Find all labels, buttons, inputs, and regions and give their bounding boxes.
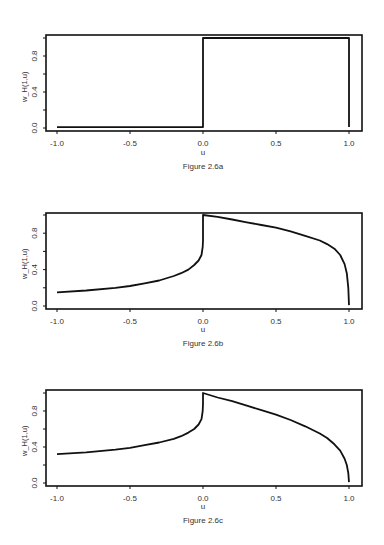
chart-panel-b: -1.0-0.50.00.51.00.00.40.8 w_H(1,u) u Fi… bbox=[0, 178, 384, 356]
figure-caption: Figure 2.6c bbox=[0, 516, 384, 525]
y-tick-label: 0.4 bbox=[30, 263, 39, 275]
y-axis-label: w_H(1,u) bbox=[20, 426, 29, 456]
x-tick-label: 0.0 bbox=[197, 139, 209, 148]
x-tick-label: -1.0 bbox=[50, 139, 64, 148]
chart-panel-a: -1.0-0.50.00.51.00.00.40.8 w_H(1,u) u Fi… bbox=[0, 0, 384, 178]
figure-caption: Figure 2.6a bbox=[0, 162, 384, 171]
y-axis-label: w_H(1,u) bbox=[20, 249, 29, 279]
plot-frame bbox=[46, 390, 362, 486]
y-tick-label: 0.4 bbox=[30, 441, 39, 453]
figure-caption: Figure 2.6b bbox=[0, 339, 384, 348]
data-line bbox=[57, 393, 349, 482]
x-tick-label: -0.5 bbox=[123, 139, 137, 148]
x-axis-label: u bbox=[0, 325, 384, 334]
y-tick-label: 0.0 bbox=[30, 300, 39, 312]
y-tick-label: 0.8 bbox=[30, 405, 39, 417]
data-line bbox=[57, 215, 349, 305]
y-tick-label: 0.8 bbox=[30, 227, 39, 239]
plot-frame bbox=[46, 213, 362, 309]
x-axis-label: u bbox=[0, 148, 384, 157]
x-axis-label: u bbox=[0, 502, 384, 511]
y-axis-label: w_H(1,u) bbox=[20, 72, 29, 102]
y-tick-label: 0.0 bbox=[30, 477, 39, 489]
y-tick-label: 0.8 bbox=[30, 50, 39, 62]
x-tick-label: 1.0 bbox=[343, 139, 355, 148]
data-line bbox=[57, 38, 349, 127]
y-tick-label: 0.4 bbox=[30, 86, 39, 98]
chart-panel-c: -1.0-0.50.00.51.00.00.40.8 w_H(1,u) u Fi… bbox=[0, 355, 384, 533]
x-tick-label: 0.5 bbox=[270, 139, 282, 148]
plot-frame bbox=[46, 35, 362, 131]
y-tick-label: 0.0 bbox=[30, 122, 39, 134]
